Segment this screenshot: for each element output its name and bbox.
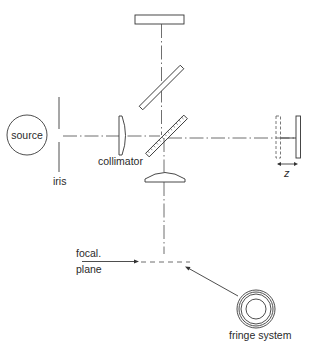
interferometer-diagram: source iris collimator (0, 0, 312, 352)
fringe-system (237, 290, 275, 328)
source-label: source (11, 129, 43, 141)
source: source (7, 115, 47, 155)
fringe-system-label: fringe system (229, 329, 292, 341)
collimator-lens (119, 116, 126, 155)
movable-mirror (296, 116, 301, 158)
fringe-arrow (185, 267, 238, 297)
collimator-label: collimator (98, 155, 143, 167)
z-label: z (283, 167, 290, 179)
collimator: collimator (98, 116, 143, 167)
iris-label: iris (53, 175, 66, 187)
movable-mirror-displaced (276, 116, 281, 158)
z-displacement-arrow (277, 162, 298, 166)
focal-plane-label-line2: plane (76, 263, 102, 275)
iris: iris (53, 97, 66, 187)
focal-plane-label-line1: focal. (76, 247, 101, 259)
fixed-mirror-top (135, 15, 184, 24)
focusing-lens (145, 173, 185, 183)
